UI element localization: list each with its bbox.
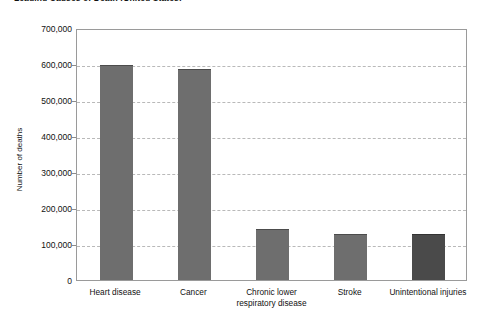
y-axis-tick-label: 700,000 bbox=[10, 24, 72, 34]
x-axis-tick-label-line: Unintentional injuries bbox=[368, 287, 488, 298]
bar bbox=[412, 234, 445, 280]
bar-fill bbox=[100, 65, 133, 280]
y-axis-tick-label: 300,000 bbox=[10, 168, 72, 178]
gridline bbox=[77, 138, 466, 139]
y-axis-label: Number of deaths bbox=[15, 100, 24, 220]
bar bbox=[256, 229, 289, 280]
gridline bbox=[77, 210, 466, 211]
gridline bbox=[77, 174, 466, 175]
bar-fill bbox=[334, 234, 367, 280]
chart-figure: Leading Causes of Death (United States) … bbox=[0, 0, 489, 326]
gridline bbox=[77, 66, 466, 67]
bar bbox=[100, 65, 133, 280]
bar-fill bbox=[412, 234, 445, 280]
y-axis-tick-label: 400,000 bbox=[10, 132, 72, 142]
y-axis-tick-label: 0 bbox=[10, 276, 72, 286]
x-axis-tick-label-line: respiratory disease bbox=[212, 298, 332, 309]
y-axis-tick-label: 600,000 bbox=[10, 60, 72, 70]
chart-title: Leading Causes of Death (United States) bbox=[14, 0, 182, 1]
gridline bbox=[77, 102, 466, 103]
y-axis-tick-label: 500,000 bbox=[10, 96, 72, 106]
y-axis-tick-label: 200,000 bbox=[10, 204, 72, 214]
bar bbox=[178, 69, 211, 280]
x-axis-tick-label: Unintentional injuries bbox=[368, 287, 488, 298]
plot-area bbox=[76, 29, 467, 281]
bar bbox=[334, 234, 367, 280]
bar-fill bbox=[178, 69, 211, 280]
y-axis-tick-label: 100,000 bbox=[10, 240, 72, 250]
bar-fill bbox=[256, 229, 289, 280]
